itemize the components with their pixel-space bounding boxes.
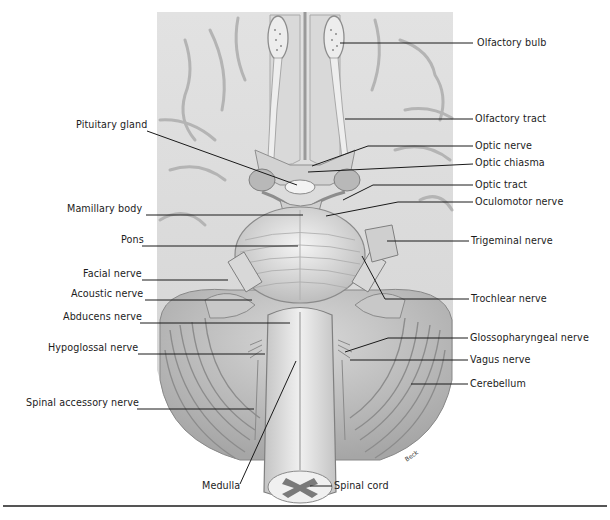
label-facial-nerve: Facial nerve xyxy=(83,268,142,280)
label-abducens-nerve: Abducens nerve xyxy=(63,311,142,323)
label-optic-chiasma: Optic chiasma xyxy=(475,157,545,169)
label-pituitary-gland: Pituitary gland xyxy=(76,119,147,131)
label-vagus-nerve: Vagus nerve xyxy=(470,354,531,366)
pons xyxy=(235,207,365,303)
label-spinal-cord: Spinal cord xyxy=(334,480,389,492)
label-hypoglossal-nerve: Hypoglossal nerve xyxy=(48,342,138,354)
label-oculomotor-nerve: Oculomotor nerve xyxy=(475,196,563,208)
label-mamillary-body: Mamillary body xyxy=(67,203,142,215)
label-trigeminal-nerve: Trigeminal nerve xyxy=(471,235,553,247)
label-optic-nerve: Optic nerve xyxy=(475,140,532,152)
label-medulla: Medulla xyxy=(202,480,240,492)
spinal-cord-cross-section xyxy=(268,471,332,503)
label-trochlear-nerve: Trochlear nerve xyxy=(471,293,547,305)
label-pons: Pons xyxy=(121,234,144,246)
label-acoustic-nerve: Acoustic nerve xyxy=(71,288,143,300)
label-optic-tract: Optic tract xyxy=(475,179,527,191)
brain-inferior-view-illustration xyxy=(0,0,610,520)
label-olfactory-bulb: Olfactory bulb xyxy=(477,37,546,49)
label-cerebellum: Cerebellum xyxy=(470,378,526,390)
label-olfactory-tract: Olfactory tract xyxy=(475,113,546,125)
label-glossopharyngeal-nerve: Glossopharyngeal nerve xyxy=(470,332,589,344)
figure-bottom-rule xyxy=(3,505,607,507)
label-spinal-accessory-nerve: Spinal accessory nerve xyxy=(26,397,139,409)
